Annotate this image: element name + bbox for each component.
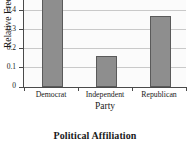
y-tick-label-0: 0 <box>0 82 16 90</box>
x-axis-line <box>23 87 187 88</box>
y-axis-line <box>23 0 24 88</box>
plot-area <box>24 0 186 87</box>
bar-democrat <box>42 0 63 87</box>
figure-caption: Political Affiliation <box>0 129 190 142</box>
y-tick-label-0.3: 0.3 <box>0 25 16 33</box>
y-tick-label-0.1: 0.1 <box>0 63 16 71</box>
y-tick-label-0.2: 0.2 <box>0 44 16 52</box>
x-tick-label-republican: Republican <box>126 90 190 100</box>
bar-independent <box>96 56 117 87</box>
bar-chart-figure: Relative Frequency 0.5 0.4 0.3 0.2 0.1 0… <box>0 0 190 145</box>
bar-republican <box>150 16 171 87</box>
y-tick-label-0.4: 0.4 <box>0 6 16 14</box>
x-axis-title: Party <box>24 100 186 112</box>
